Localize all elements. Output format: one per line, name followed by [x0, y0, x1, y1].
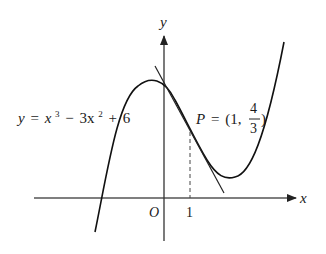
function-equation: y = x 3 − 3x 2 + 6 — [16, 104, 131, 126]
point-p-label: P = (1, 4 3 ) — [195, 101, 266, 136]
svg-text:P = (1,: P = (1, — [195, 111, 241, 128]
svg-text:3: 3 — [250, 121, 257, 136]
svg-text:y = x 3: y = x 3 − 3x 2 + 6 — [16, 104, 131, 126]
y-axis-label: y — [158, 14, 167, 30]
x-axis-label: x — [299, 190, 307, 206]
origin-label: O — [149, 205, 159, 220]
graph-canvas: y x O 1 y = x 3 − 3x 2 + 6 P = (1, 4 3 ) — [0, 0, 326, 254]
tangent-line — [155, 66, 224, 193]
cubic-curve — [95, 42, 284, 232]
svg-text:4: 4 — [250, 101, 257, 116]
tick-1-label: 1 — [186, 205, 193, 220]
svg-text:): ) — [261, 111, 266, 128]
